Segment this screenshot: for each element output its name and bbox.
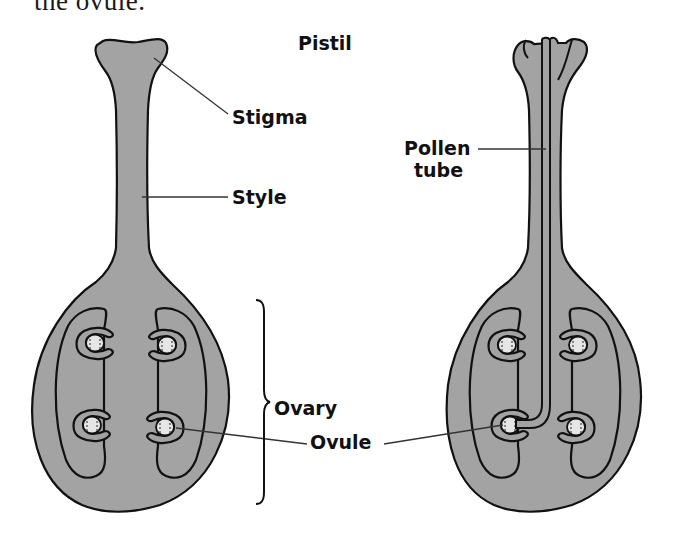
pistil-right — [447, 38, 641, 512]
stigma-label: Stigma — [232, 107, 308, 128]
pollen-tube-label-line2: tube — [414, 160, 463, 181]
stigma-leader — [154, 58, 228, 114]
pistil-left — [32, 39, 229, 512]
ovule-label: Ovule — [310, 432, 371, 453]
pistil-title: Pistil — [298, 33, 352, 54]
ovary-brace — [256, 300, 270, 504]
pistil-diagram — [0, 0, 676, 552]
ovary-label: Ovary — [274, 398, 337, 419]
style-label: Style — [232, 187, 287, 208]
pollen-tube-label-line1: Pollen — [404, 138, 470, 159]
